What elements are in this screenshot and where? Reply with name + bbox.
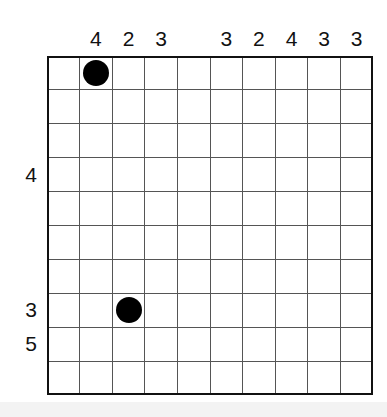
column-clue: 3: [145, 27, 178, 51]
column-clue: 3: [308, 27, 341, 51]
black-dot[interactable]: [116, 297, 142, 323]
grid-row-line: [49, 361, 371, 362]
column-clue: 2: [243, 27, 276, 51]
grid-row-line: [49, 191, 371, 192]
black-dot[interactable]: [83, 60, 109, 86]
grid-row-line: [49, 225, 371, 226]
row-clue: 4: [20, 163, 42, 187]
grid-row-line: [49, 89, 371, 90]
grid-row-line: [49, 157, 371, 158]
grid-row-line: [49, 123, 371, 124]
column-clue: 3: [340, 27, 373, 51]
row-clue: 5: [20, 332, 42, 356]
column-clue: 4: [275, 27, 308, 51]
grid-row-line: [49, 293, 371, 294]
column-clue: 4: [80, 27, 113, 51]
grid-row-line: [49, 259, 371, 260]
column-clue: 3: [210, 27, 243, 51]
bottom-band: [0, 402, 387, 417]
grid-row-line: [49, 327, 371, 328]
row-clue: 3: [20, 298, 42, 322]
column-clue: 2: [112, 27, 145, 51]
puzzle-grid[interactable]: [47, 56, 373, 395]
